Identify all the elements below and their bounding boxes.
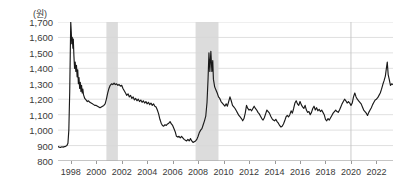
x-tick-label-2008: 2008: [188, 167, 208, 177]
y-tick-label-800: 800: [37, 156, 53, 167]
x-tick-label-2018: 2018: [315, 167, 335, 177]
y-tick-label-1700: 1,700: [29, 17, 53, 28]
x-tick-mark-1998: [71, 161, 72, 164]
shaded-recession-bands: [106, 22, 218, 161]
y-tick-label-1200: 1,200: [29, 94, 53, 105]
x-tick-label-2002: 2002: [112, 167, 132, 177]
x-tick-mark-2010: [224, 161, 225, 164]
x-tick-mark-2022: [376, 161, 377, 164]
x-tick-label-2016: 2016: [290, 167, 310, 177]
x-tick-mark-2020: [351, 161, 352, 164]
x-tick-label-1998: 1998: [61, 167, 81, 177]
x-tick-label-2020: 2020: [341, 167, 361, 177]
x-tick-mark-2016: [300, 161, 301, 164]
y-tick-label-1000: 1,000: [29, 125, 53, 136]
y-tick-label-1600: 1,600: [29, 32, 53, 43]
x-tick-mark-2018: [325, 161, 326, 164]
x-tick-mark-2006: [173, 161, 174, 164]
x-tick-label-2010: 2010: [214, 167, 234, 177]
x-tick-mark-2000: [96, 161, 97, 164]
x-tick-label-2006: 2006: [163, 167, 183, 177]
x-tick-mark-2008: [198, 161, 199, 164]
y-tick-label-1300: 1,300: [29, 78, 53, 89]
x-tick-mark-2012: [249, 161, 250, 164]
y-axis-tick-labels: 8009001,0001,1001,2001,3001,4001,5001,60…: [0, 22, 56, 161]
y-tick-label-1400: 1,400: [29, 63, 53, 74]
x-tick-label-2022: 2022: [366, 167, 386, 177]
x-tick-mark-2004: [147, 161, 148, 164]
line-chart-svg: [58, 22, 393, 161]
x-tick-label-2014: 2014: [265, 167, 285, 177]
exchange-rate-chart: (원) 8009001,0001,1001,2001,3001,4001,500…: [0, 0, 408, 195]
plot-area: [58, 22, 393, 161]
x-tick-label-2004: 2004: [137, 167, 157, 177]
y-tick-label-1500: 1,500: [29, 47, 53, 58]
x-tick-label-2012: 2012: [239, 167, 259, 177]
x-axis-tick-labels: 1998200020022004200620082010201220142016…: [58, 163, 393, 183]
y-tick-label-1100: 1,100: [29, 109, 53, 120]
x-tick-mark-2014: [275, 161, 276, 164]
x-tick-mark-2002: [122, 161, 123, 164]
x-tick-label-2000: 2000: [86, 167, 106, 177]
y-tick-label-900: 900: [37, 140, 53, 151]
